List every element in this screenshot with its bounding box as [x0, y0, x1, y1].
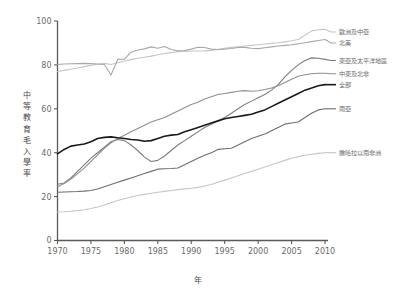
legend-label[interactable]: 東亞及太平洋地區 [339, 57, 387, 65]
y-axis-tick-label: 40 [41, 149, 51, 158]
x-axis-tick-label: 2005 [281, 247, 301, 256]
legend-label[interactable]: 南亞 [339, 105, 351, 112]
legend-label[interactable]: 歐洲及中亞 [339, 28, 369, 36]
y-axis-tick-label: 100 [36, 17, 51, 26]
legend-label[interactable]: 撒哈拉以南非洲 [339, 149, 381, 157]
x-axis-tick-labels: 197019751980198519901995200020052010 [47, 247, 335, 256]
x-axis-tick-label: 1975 [81, 247, 101, 256]
x-axis-tick-label: 2010 [315, 247, 335, 256]
x-axis-tick-label: 1970 [47, 247, 67, 256]
x-axis-tick-label: 1995 [215, 247, 235, 256]
legend-label[interactable]: 全部 [339, 81, 351, 89]
chart-figure: 020406080100 197019751980198519901995200… [0, 0, 404, 291]
x-axis-title: 年 [194, 275, 202, 285]
y-axis-tick-label: 0 [46, 236, 51, 245]
x-axis-tick-label: 1980 [114, 247, 134, 256]
x-axis-tick-label: 1985 [148, 247, 168, 256]
y-axis-tick-label: 80 [41, 61, 51, 70]
legend-label[interactable]: 北美 [339, 39, 351, 47]
line-chart: 020406080100 197019751980198519901995200… [0, 0, 404, 291]
legend-label[interactable]: 中東及北非 [339, 70, 369, 78]
y-axis-tick-label: 20 [41, 193, 51, 202]
x-axis-tick-label: 2000 [248, 247, 268, 256]
y-axis-tick-label: 60 [41, 105, 51, 114]
x-axis-tick-label: 1990 [181, 247, 201, 256]
